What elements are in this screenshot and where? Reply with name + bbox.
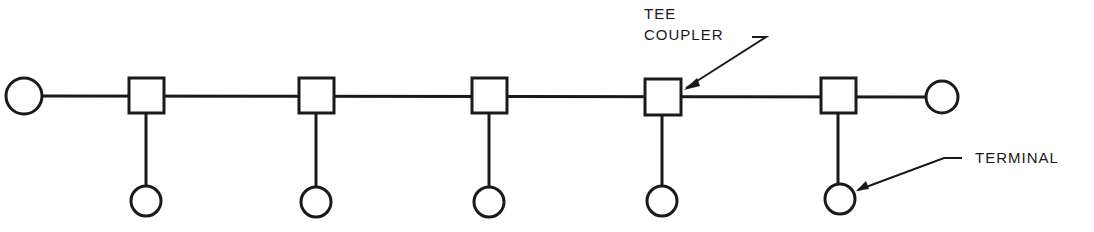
diagram-graphics <box>0 0 1094 232</box>
terminal-arrowhead-icon <box>856 181 869 191</box>
tee-coupler-2 <box>299 78 334 113</box>
terminal-5 <box>825 184 855 214</box>
tee-coupler-arrowhead-icon <box>684 78 700 90</box>
end-terminator-left <box>6 78 42 114</box>
tee-coupler-5 <box>821 78 856 113</box>
bus-topology-diagram: TEE COUPLER TERMINAL <box>0 0 1094 232</box>
tee-coupler-label-line2: COUPLER <box>644 25 724 45</box>
terminal-3 <box>474 187 504 217</box>
terminal-2 <box>301 187 331 217</box>
tee-coupler-3 <box>472 78 507 113</box>
tee-coupler-label-line1: TEE <box>644 4 676 24</box>
tee-coupler-4 <box>645 79 681 115</box>
terminal-leader <box>858 158 962 190</box>
tee-coupler-1 <box>129 78 164 113</box>
end-terminator-right <box>926 81 958 113</box>
terminal-label: TERMINAL <box>975 148 1059 168</box>
terminal-4 <box>647 186 677 216</box>
terminal-1 <box>131 186 161 216</box>
